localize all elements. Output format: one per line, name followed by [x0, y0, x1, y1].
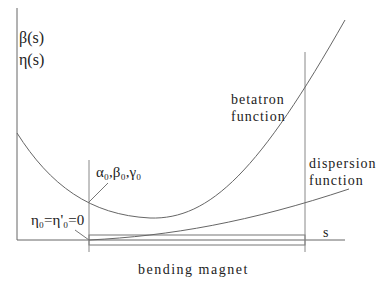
dispersion-leader-line — [75, 230, 89, 240]
twiss-leader-line — [89, 183, 108, 202]
betatron-label-line2: function — [231, 109, 286, 125]
dispersion-function-curve — [89, 189, 349, 240]
betatron-function-curve — [17, 20, 345, 218]
x-axis-label-s: s — [323, 225, 328, 241]
y-axis-label-beta: β(s) — [19, 29, 44, 47]
initial-dispersion-annotation: η₀=η'₀=0 — [31, 212, 84, 229]
dispersion-label-line2: function — [309, 173, 364, 189]
bending-magnet-label: bending magnet — [138, 262, 249, 278]
y-axis-label-eta: η(s) — [19, 51, 44, 69]
betatron-label-line1: betatron — [231, 92, 285, 108]
dispersion-label-line1: dispersion — [309, 156, 377, 172]
initial-twiss-annotation: α₀,β₀,γ₀ — [96, 164, 141, 181]
